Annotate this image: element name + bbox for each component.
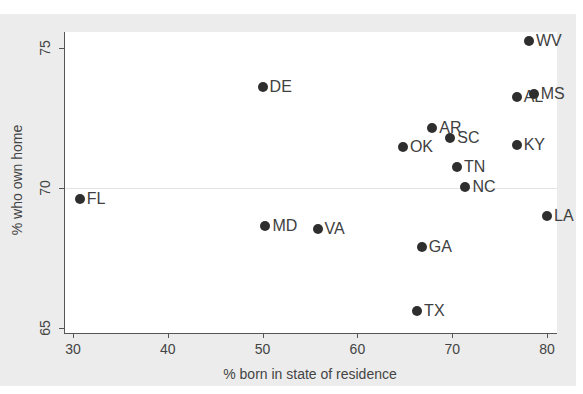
y-tick-label: 70: [37, 173, 53, 203]
point-label: MS: [541, 84, 565, 104]
point-label: FL: [87, 189, 106, 209]
y-tick: [59, 188, 64, 189]
x-tick-label: 50: [248, 341, 278, 357]
marker-dot: [452, 162, 462, 172]
x-tick-label: 80: [532, 341, 562, 357]
point-label: KY: [524, 135, 545, 155]
y-tick-label: 75: [37, 33, 53, 63]
x-tick: [73, 333, 74, 338]
x-tick: [263, 333, 264, 338]
x-tick-label: 60: [342, 341, 372, 357]
point-label: TX: [424, 301, 444, 321]
point-label: MD: [272, 216, 297, 236]
marker-dot: [313, 224, 323, 234]
x-tick-label: 70: [437, 341, 467, 357]
point-label: DE: [270, 77, 292, 97]
marker-dot: [542, 211, 552, 221]
marker-dot: [524, 36, 534, 46]
point-label: VA: [325, 219, 345, 239]
marker-dot: [529, 89, 539, 99]
x-axis-title: % born in state of residence: [0, 366, 583, 382]
x-tick: [547, 333, 548, 338]
x-tick-label: 40: [153, 341, 183, 357]
y-axis-title: % who own home: [9, 105, 25, 255]
x-tick-label: 30: [58, 341, 88, 357]
marker-dot: [75, 194, 85, 204]
marker-dot: [512, 140, 522, 150]
point-label: NC: [472, 177, 495, 197]
marker-dot: [445, 133, 455, 143]
x-tick: [452, 333, 453, 338]
x-axis-line: [64, 333, 557, 334]
y-tick-label: 65: [37, 313, 53, 343]
y-tick: [59, 48, 64, 49]
y-tick: [59, 328, 64, 329]
point-label: LA: [554, 206, 574, 226]
point-label: GA: [429, 237, 452, 257]
x-tick: [168, 333, 169, 338]
point-label: OK: [410, 137, 433, 157]
point-label: TN: [464, 157, 485, 177]
point-label: SC: [457, 128, 479, 148]
y-axis-line: [64, 32, 65, 333]
marker-dot: [512, 92, 522, 102]
marker-dot: [417, 242, 427, 252]
marker-dot: [258, 82, 268, 92]
x-tick: [357, 333, 358, 338]
point-label: WV: [536, 31, 562, 51]
